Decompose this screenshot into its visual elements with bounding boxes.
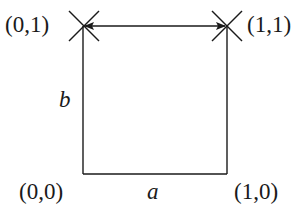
corner-label-top-left: (0,1)	[5, 13, 49, 36]
unit-square-diagram: (0,1) (1,1) (0,0) (1,0) b a	[0, 0, 304, 212]
edge-label-a: a	[147, 180, 159, 203]
corner-label-top-right: (1,1)	[247, 13, 291, 36]
edge-label-b: b	[59, 88, 71, 111]
corner-label-bottom-right: (1,0)	[234, 180, 278, 203]
corner-label-bottom-left: (0,0)	[19, 180, 63, 203]
